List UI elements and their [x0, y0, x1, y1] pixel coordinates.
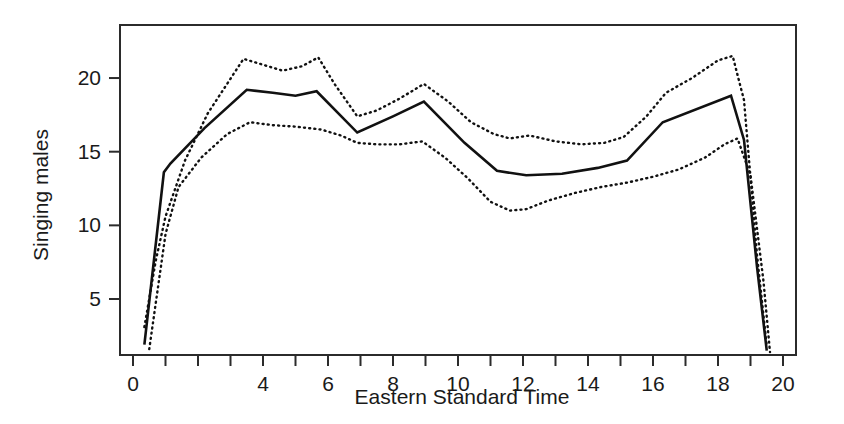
y-tick-label: 15 — [78, 140, 101, 163]
x-tick-label: 4 — [257, 372, 269, 395]
y-tick-label: 10 — [78, 213, 101, 236]
x-tick-label: 18 — [706, 372, 729, 395]
x-tick-label: 16 — [641, 372, 664, 395]
plot-frame — [120, 25, 796, 355]
x-tick-label: 0 — [127, 372, 139, 395]
y-axis-title: Singing males — [29, 129, 52, 261]
series-dotted — [149, 122, 770, 352]
x-tick-label: 14 — [576, 372, 600, 395]
data-series-group — [144, 56, 770, 352]
y-tick-label: 5 — [89, 287, 101, 310]
x-axis-title: Eastern Standard Time — [355, 385, 570, 408]
x-tick-label: 20 — [771, 372, 794, 395]
y-tick-label: 20 — [78, 66, 101, 89]
chart-figure: 5101520 0468101214161820 Singing males E… — [0, 0, 844, 424]
y-axis: 5101520 — [78, 66, 120, 310]
line-chart: 5101520 0468101214161820 Singing males E… — [0, 0, 844, 424]
x-tick-label: 6 — [322, 372, 334, 395]
